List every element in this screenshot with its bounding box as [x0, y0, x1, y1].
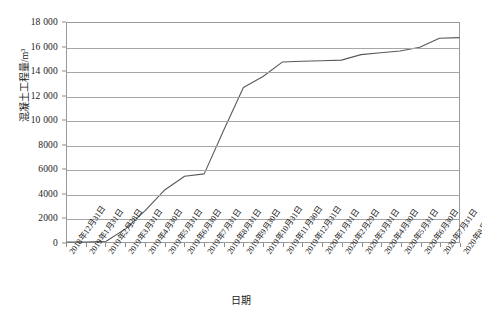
chart-figure: 混凝土工程量/m³ 18 00016 00014 00012 00010 000…: [0, 0, 482, 315]
x-axis-ticks: 2018年12月31日2019年1月31日2019年2月28日2019年3月31…: [0, 0, 482, 315]
x-axis-title: 日期: [0, 292, 482, 307]
